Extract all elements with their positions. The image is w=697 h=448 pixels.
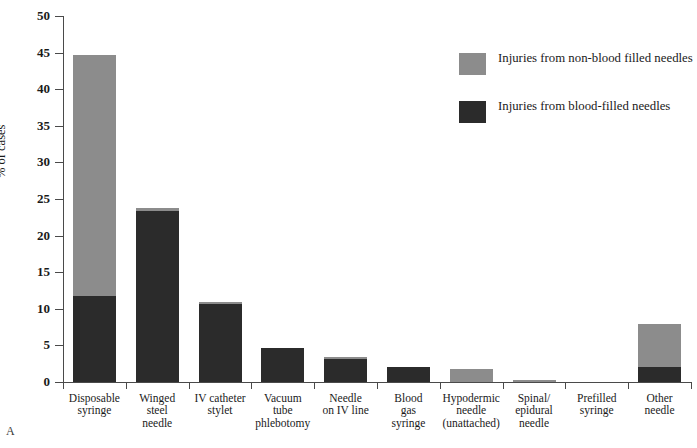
y-axis-tick	[55, 382, 63, 383]
y-axis-tick-label: 50	[12, 9, 50, 22]
x-axis-tick-label: Needleon IV line	[314, 392, 377, 417]
bar-group[interactable]	[638, 16, 681, 382]
x-axis-label-line: steel	[126, 404, 189, 416]
y-axis-tick	[55, 199, 63, 200]
y-axis-tick	[55, 53, 63, 54]
x-axis-tick	[503, 382, 504, 389]
y-axis-tick	[55, 16, 63, 17]
x-axis-tick-label: IV catheterstylet	[189, 392, 252, 417]
bar-group[interactable]	[513, 16, 556, 382]
x-axis-label-line: syringe	[377, 417, 440, 429]
x-axis-label-line: IV catheter	[189, 392, 252, 404]
x-axis-label-line: syringe	[63, 404, 126, 416]
bar-segment-blood-filled[interactable]	[199, 304, 242, 382]
x-axis-tick-label: Spinal/epiduralneedle	[503, 392, 566, 429]
x-axis-label-line: epidural	[503, 404, 566, 416]
x-axis-tick-label: Wingedsteelneedle	[126, 392, 189, 429]
x-axis-label-line: needle	[440, 404, 503, 416]
y-axis-tick-label: 0	[12, 375, 50, 388]
bar-group[interactable]	[387, 16, 430, 382]
bar-group[interactable]	[575, 16, 618, 382]
needlestick-injury-chart: % of cases 05101520253035404550 Disposab…	[0, 0, 697, 448]
x-axis-label-line: gas	[377, 404, 440, 416]
y-axis-tick	[55, 89, 63, 90]
x-axis-label-line: Prefilled	[565, 392, 628, 404]
bar-segment-non-blood-filled[interactable]	[199, 302, 242, 305]
x-axis-tick-label: Prefilledsyringe	[565, 392, 628, 417]
y-axis-title: % of cases	[0, 125, 9, 178]
bar-group[interactable]	[261, 16, 304, 382]
x-axis-label-line: Disposable	[63, 392, 126, 404]
legend-swatch	[459, 53, 486, 75]
x-axis-tick	[565, 382, 566, 389]
x-axis-label-line: Winged	[126, 392, 189, 404]
x-axis-label-line: needle	[503, 417, 566, 429]
y-axis-tick-label: 25	[12, 192, 50, 205]
y-axis-tick-label: 10	[12, 302, 50, 315]
x-axis-tick-label: Vacuumtubephlebotomy	[251, 392, 314, 429]
y-axis-tick	[55, 309, 63, 310]
y-axis-tick-label: 45	[12, 46, 50, 59]
bar-group[interactable]	[324, 16, 367, 382]
x-axis-label-line: syringe	[565, 404, 628, 416]
bar-group[interactable]	[136, 16, 179, 382]
bar-segment-blood-filled[interactable]	[73, 296, 116, 382]
y-axis-tick-label: 35	[12, 119, 50, 132]
x-axis-label-line: needle	[628, 404, 691, 416]
x-axis-tick	[314, 382, 315, 389]
x-axis-tick	[189, 382, 190, 389]
x-axis-tick-label: Disposablesyringe	[63, 392, 126, 417]
bar-segment-blood-filled[interactable]	[136, 211, 179, 382]
bar-segment-non-blood-filled[interactable]	[450, 369, 493, 382]
bar-segment-blood-filled[interactable]	[324, 359, 367, 382]
x-axis-tick	[63, 382, 64, 389]
y-axis-tick	[55, 162, 63, 163]
x-axis-label-line: Other	[628, 392, 691, 404]
plot-area	[63, 16, 691, 382]
x-axis-tick	[251, 382, 252, 389]
x-axis-label-line: tube	[251, 404, 314, 416]
bar-segment-non-blood-filled[interactable]	[638, 324, 681, 366]
legend-label: Injuries from blood-filled needles	[498, 99, 697, 114]
x-axis-label-line: (unattached)	[440, 417, 503, 429]
y-axis-tick-label: 15	[12, 265, 50, 278]
bar-segment-blood-filled[interactable]	[261, 348, 304, 382]
x-axis-label-line: on IV line	[314, 404, 377, 416]
x-axis-tick	[377, 382, 378, 389]
bar-segment-blood-filled[interactable]	[387, 367, 430, 382]
x-axis-label-line: needle	[126, 417, 189, 429]
y-axis-tick	[55, 272, 63, 273]
x-axis-tick	[440, 382, 441, 389]
x-axis-label-line: Hypodermic	[440, 392, 503, 404]
y-axis-tick	[55, 236, 63, 237]
y-axis-tick-label: 20	[12, 229, 50, 242]
x-axis-label-line: Spinal/	[503, 392, 566, 404]
panel-label: A	[6, 424, 15, 439]
legend-label: Injuries from non-blood filled needles	[498, 51, 697, 66]
bar-segment-non-blood-filled[interactable]	[324, 357, 367, 359]
bar-segment-blood-filled[interactable]	[638, 367, 681, 382]
y-axis-tick-label: 30	[12, 155, 50, 168]
x-axis-label-line: Blood	[377, 392, 440, 404]
x-axis-label-line: phlebotomy	[251, 417, 314, 429]
x-axis-label-line: Vacuum	[251, 392, 314, 404]
legend-swatch	[459, 101, 486, 123]
y-axis-tick	[55, 126, 63, 127]
x-axis-tick-label: Otherneedle	[628, 392, 691, 417]
bar-segment-non-blood-filled[interactable]	[73, 55, 116, 296]
y-axis-tick-label: 40	[12, 82, 50, 95]
bar-segment-non-blood-filled[interactable]	[513, 380, 556, 382]
x-axis-tick-label: Hypodermicneedle(unattached)	[440, 392, 503, 429]
bar-group[interactable]	[73, 16, 116, 382]
y-axis-tick-label: 5	[12, 338, 50, 351]
x-axis-tick	[691, 382, 692, 389]
y-axis-tick	[55, 345, 63, 346]
x-axis-tick	[628, 382, 629, 389]
x-axis-tick-label: Bloodgassyringe	[377, 392, 440, 429]
x-axis-label-line: Needle	[314, 392, 377, 404]
x-axis-label-line: stylet	[189, 404, 252, 416]
x-axis-tick	[126, 382, 127, 389]
bar-segment-non-blood-filled[interactable]	[136, 208, 179, 211]
bar-group[interactable]	[199, 16, 242, 382]
